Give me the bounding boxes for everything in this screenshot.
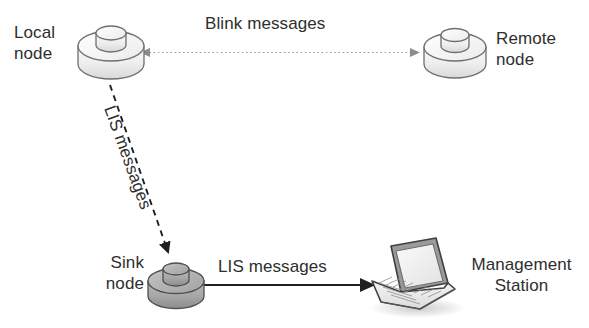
local-node-label: Local node — [14, 22, 55, 64]
sink-node-label: Sink node — [62, 252, 144, 294]
local-node[interactable] — [78, 26, 144, 79]
management-station[interactable] — [370, 238, 466, 318]
sink-node[interactable] — [148, 263, 204, 309]
remote-node[interactable] — [424, 29, 486, 79]
disk-node-icon — [148, 263, 204, 309]
blink-messages-label: Blink messages — [205, 14, 325, 34]
disk-node-icon — [424, 29, 486, 79]
network-diagram: Local node Remote node Sink node Managem… — [0, 0, 589, 328]
remote-node-label: Remote node — [496, 28, 556, 70]
disk-node-icon — [78, 26, 144, 79]
laptop-icon — [372, 238, 455, 309]
lis-messages-bottom-label: LIS messages — [218, 257, 327, 277]
management-station-label: Management Station — [456, 254, 587, 296]
